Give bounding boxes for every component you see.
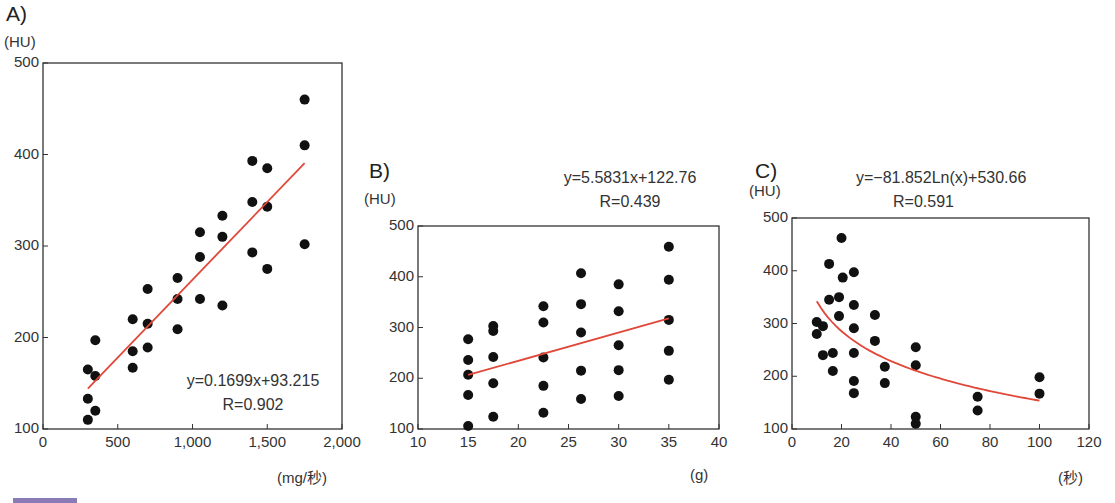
panel-a-x-tick-label: 500 <box>105 433 130 450</box>
panel-b-x-tick-label: 30 <box>610 433 627 450</box>
panel-b-plot-frame <box>418 226 719 429</box>
panel-a-trend-line <box>88 163 305 388</box>
panel-b-y-tick-label: 400 <box>374 267 414 284</box>
panel-b-x-tick-label: 20 <box>510 433 527 450</box>
panel-b-data-point <box>664 242 674 252</box>
panel-a-data-point <box>128 346 138 356</box>
panel-c-y-tick-label: 100 <box>748 419 788 436</box>
panel-c-data-point <box>824 259 834 269</box>
panel-a-equation: y=0.1699x+93.215 <box>168 372 338 390</box>
panel-a-data-point <box>143 284 153 294</box>
plot-canvas <box>0 0 1115 503</box>
panel-b-x-tick-label: 15 <box>460 433 477 450</box>
panel-c-equation: y=−81.852Ln(x)+530.66 <box>856 169 1086 187</box>
panel-b-data-point <box>463 421 473 431</box>
panel-c-x-unit: (秒) <box>1058 466 1083 487</box>
panel-a-data-point <box>300 95 310 105</box>
panel-c-data-point <box>849 348 859 358</box>
panel-b-data-point <box>538 317 548 327</box>
panel-b-data-point <box>488 412 498 422</box>
panel-a-y-tick-label: 400 <box>0 145 39 162</box>
panel-a-data-point <box>262 264 272 274</box>
panel-c-x-tick-label: 120 <box>1076 433 1101 450</box>
panel-c-r-value: R=0.591 <box>893 193 973 211</box>
panel-c-data-point <box>1035 389 1045 399</box>
panel-b-y-tick-label: 300 <box>374 318 414 335</box>
panel-a-data-point <box>195 252 205 262</box>
panel-c-y-tick-label: 400 <box>748 261 788 278</box>
panel-c-data-point <box>870 336 880 346</box>
panel-c-data-point <box>849 376 859 386</box>
panel-a-data-point <box>300 239 310 249</box>
panel-a-data-point <box>217 300 227 310</box>
panel-a-title: A) <box>6 2 27 26</box>
panel-b-x-tick-label: 10 <box>410 433 427 450</box>
panel-c-data-point <box>880 362 890 372</box>
panel-b-data-point <box>664 346 674 356</box>
panel-a-x-tick-label: 2,000 <box>323 433 361 450</box>
panel-c-x-tick-label: 0 <box>788 433 796 450</box>
panel-c-data-point <box>818 321 828 331</box>
panel-c-x-tick-label: 40 <box>883 433 900 450</box>
panel-b-r-value: R=0.439 <box>540 193 720 211</box>
panel-a-x-tick-label: 1,000 <box>174 433 212 450</box>
panel-b-data-point <box>664 275 674 285</box>
panel-c-plot-frame <box>792 218 1089 429</box>
panel-c-data-point <box>849 323 859 333</box>
panel-b-x-tick-label: 35 <box>660 433 677 450</box>
panel-c-data-point <box>911 419 921 429</box>
panel-a-y-tick-label: 300 <box>0 236 39 253</box>
panel-b-data-point <box>576 328 586 338</box>
panel-a-y-tick-label: 200 <box>0 328 39 345</box>
panel-b-data-point <box>463 355 473 365</box>
panel-b-data-point <box>614 279 624 289</box>
panel-b-data-point <box>488 352 498 362</box>
panel-b-y-tick-label: 500 <box>374 216 414 233</box>
panel-b-equation: y=5.5831x+122.76 <box>540 169 720 187</box>
panel-b-trend-line <box>468 318 669 375</box>
panel-b-data-point <box>614 340 624 350</box>
panel-b-x-tick-label: 25 <box>560 433 577 450</box>
panel-b-x-tick-label: 40 <box>711 433 728 450</box>
panel-c-data-point <box>838 273 848 283</box>
panel-a-data-point <box>83 415 93 425</box>
panel-a-data-point <box>83 394 93 404</box>
panel-a-data-point <box>247 247 257 257</box>
panel-a-data-point <box>247 156 257 166</box>
panel-c-data-point <box>824 295 834 305</box>
panel-c-data-point <box>849 388 859 398</box>
panel-a-data-point <box>128 363 138 373</box>
panel-c-y-unit: (HU) <box>749 182 781 199</box>
panel-b-title: B) <box>369 159 390 183</box>
footer-marker <box>13 498 77 503</box>
panel-c-data-point <box>973 392 983 402</box>
panel-b-data-point <box>614 365 624 375</box>
panel-a-y-tick-label: 500 <box>0 53 39 70</box>
panel-a-data-point <box>262 163 272 173</box>
panel-c-data-point <box>837 233 847 243</box>
panel-a-data-point <box>90 335 100 345</box>
panel-b-data-point <box>488 326 498 336</box>
panel-a-data-point <box>217 211 227 221</box>
panel-a-r-value: R=0.902 <box>168 396 338 414</box>
panel-c-y-tick-label: 200 <box>748 366 788 383</box>
panel-c-data-point <box>870 310 880 320</box>
panel-b-data-point <box>538 381 548 391</box>
panel-c-data-point <box>849 267 859 277</box>
panel-b-data-point <box>614 306 624 316</box>
figure-stage: A) (HU) y=0.1699x+93.215 R=0.902 (mg/秒) … <box>0 0 1115 503</box>
panel-b-data-point <box>664 375 674 385</box>
panel-b-data-point <box>463 334 473 344</box>
panel-c-data-point <box>812 329 822 339</box>
panel-a-data-point <box>143 343 153 353</box>
panel-c-data-point <box>828 348 838 358</box>
panel-c-title: C) <box>755 159 777 183</box>
panel-b-data-point <box>538 408 548 418</box>
panel-a-data-point <box>173 273 183 283</box>
panel-c-y-tick-label: 300 <box>748 314 788 331</box>
panel-a-data-point <box>247 197 257 207</box>
panel-c-x-tick-label: 100 <box>1027 433 1052 450</box>
panel-a-data-point <box>90 406 100 416</box>
panel-c-data-point <box>818 350 828 360</box>
panel-b-y-tick-label: 100 <box>374 419 414 436</box>
